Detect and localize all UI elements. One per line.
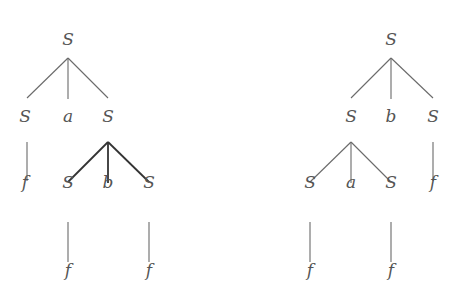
tree-node-label: S: [345, 106, 357, 126]
parse-trees-svg: SSaSfSbSff SSbSSaSfff: [0, 0, 465, 308]
tree-node-label: S: [304, 172, 316, 192]
tree-edge: [68, 58, 108, 98]
tree-node-label: a: [346, 172, 356, 192]
parse-tree-diagram: SSaSfSbSff SSbSSaSfff: [0, 0, 465, 308]
tree-node-label: f: [428, 172, 439, 192]
tree-edge: [27, 58, 68, 98]
tree-node-label: a: [63, 106, 73, 126]
tree-node-label: S: [385, 29, 397, 49]
tree-edge: [391, 58, 433, 98]
tree-node-label: S: [62, 29, 74, 49]
tree-node-label: S: [143, 172, 155, 192]
tree-node-label: S: [102, 106, 114, 126]
tree-node-label: S: [62, 172, 74, 192]
tree-node-label: b: [103, 172, 114, 192]
parse-tree-left: SSaSfSbSff: [19, 29, 155, 280]
tree-node-label: f: [386, 260, 397, 280]
tree-node-label: f: [305, 260, 316, 280]
tree-node-label: S: [19, 106, 31, 126]
tree-node-label: b: [386, 106, 397, 126]
tree-node-label: S: [385, 172, 397, 192]
tree-node-label: S: [427, 106, 439, 126]
tree-edge: [310, 142, 351, 182]
tree-edge: [351, 58, 391, 98]
tree-node-label: f: [20, 172, 31, 192]
tree-node-label: f: [63, 260, 74, 280]
parse-tree-right: SSbSSaSfff: [304, 29, 439, 280]
tree-node-label: f: [144, 260, 155, 280]
